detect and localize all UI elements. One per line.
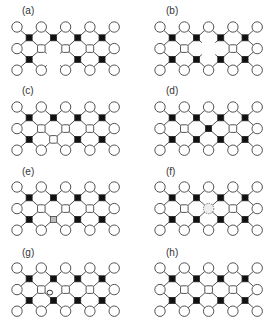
circle-atom <box>203 306 213 316</box>
square-atom <box>242 136 248 142</box>
circle-atom <box>12 203 22 213</box>
square-atom <box>75 297 81 303</box>
circle-atom <box>85 306 95 316</box>
square-atom <box>242 56 248 62</box>
square-atom <box>169 56 175 62</box>
circle-atom <box>252 102 262 112</box>
circle-atom <box>181 286 189 294</box>
circle-atom <box>252 306 262 316</box>
circle-atom <box>38 205 46 213</box>
circle-atom <box>12 284 22 294</box>
circle-atom <box>228 225 238 235</box>
circle-atom <box>36 22 46 32</box>
circle-atom <box>85 22 95 32</box>
panel-label: (f) <box>166 166 175 177</box>
square-atom <box>99 216 105 222</box>
square-atom <box>218 276 224 282</box>
square-atom <box>242 35 248 41</box>
circle-atom <box>36 182 46 192</box>
square-atom <box>169 136 175 142</box>
circle-atom <box>155 225 165 235</box>
panel-a: (a) <box>12 5 120 75</box>
circle-atom <box>60 263 70 273</box>
square-atom <box>26 276 32 282</box>
circle-atom <box>228 145 238 155</box>
circle-atom <box>203 65 213 75</box>
defect-lattice-figure: (a)(b)(c)(d)(e)(f)(g)(h) <box>0 0 268 325</box>
panel-label: (a) <box>22 5 34 16</box>
circle-atom <box>179 263 189 273</box>
circle-atom <box>181 205 189 213</box>
circle-atom <box>85 263 95 273</box>
panel-label: (c) <box>22 85 34 96</box>
panel-e: (e) <box>12 166 120 235</box>
square-atom <box>218 115 224 121</box>
circle-atom <box>12 123 22 133</box>
circle-atom <box>155 284 165 294</box>
square-atom <box>75 35 81 41</box>
circle-atom <box>12 145 22 155</box>
antisite-square-atom <box>206 126 212 132</box>
square-atom <box>75 276 81 282</box>
square-atom <box>50 35 56 41</box>
circle-atom <box>85 225 95 235</box>
panel-c: (c) <box>12 85 120 155</box>
square-atom <box>50 297 56 303</box>
square-atom <box>218 216 224 222</box>
circle-atom <box>155 182 165 192</box>
circle-atom <box>38 286 46 294</box>
circle-atom <box>12 225 22 235</box>
panel-label: (g) <box>22 247 34 258</box>
square-atom <box>99 276 105 282</box>
circle-atom <box>60 182 70 192</box>
circle-atom <box>252 145 262 155</box>
panel-h: (h) <box>155 247 263 316</box>
circle-atom <box>179 145 189 155</box>
square-atom <box>193 35 199 41</box>
antisite-circle-atom <box>50 136 58 144</box>
circle-atom <box>179 306 189 316</box>
circle-atom <box>36 102 46 112</box>
circle-atom <box>155 22 165 32</box>
square-atom <box>75 56 81 62</box>
circle-atom <box>60 145 70 155</box>
square-atom <box>75 216 81 222</box>
square-atom <box>218 297 224 303</box>
panel-label: (h) <box>166 247 178 258</box>
circle-atom <box>36 225 46 235</box>
circle-atom <box>179 225 189 235</box>
circle-atom <box>109 43 119 53</box>
square-atom <box>75 115 81 121</box>
square-atom <box>242 195 248 201</box>
square-atom <box>50 195 56 201</box>
circle-atom <box>203 145 213 155</box>
circle-atom <box>229 45 237 53</box>
circle-atom <box>179 22 189 32</box>
circle-atom <box>60 65 70 75</box>
substitution-atom <box>203 203 213 213</box>
circle-atom <box>252 203 262 213</box>
square-atom <box>26 195 32 201</box>
circle-atom <box>62 286 70 294</box>
circle-atom <box>252 284 262 294</box>
circle-atom <box>203 263 213 273</box>
square-atom <box>169 35 175 41</box>
square-atom <box>242 216 248 222</box>
circle-atom <box>155 203 165 213</box>
circle-atom <box>228 102 238 112</box>
circle-atom <box>85 145 95 155</box>
panel-label: (d) <box>166 85 178 96</box>
square-atom <box>218 136 224 142</box>
square-atom <box>193 56 199 62</box>
circle-atom <box>155 123 165 133</box>
circle-atom <box>205 286 213 294</box>
circle-atom <box>86 125 94 133</box>
square-atom <box>169 276 175 282</box>
circle-atom <box>228 65 238 75</box>
square-atom <box>26 56 32 62</box>
circle-atom <box>109 182 119 192</box>
circle-atom <box>155 43 165 53</box>
circle-atom <box>109 65 119 75</box>
circle-atom <box>229 205 237 213</box>
circle-atom <box>252 65 262 75</box>
